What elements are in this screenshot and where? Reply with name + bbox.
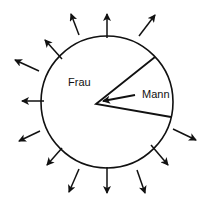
outer-region-label: Frau — [68, 77, 91, 88]
outward-arrow-icon — [69, 169, 79, 192]
pressure-diagram — [0, 0, 210, 205]
outward-arrow-icon — [45, 40, 62, 59]
inner-sector — [96, 57, 171, 117]
outward-arrow-icon — [151, 145, 168, 165]
outward-arrow-icon — [15, 60, 39, 71]
outward-arrow-icon — [173, 129, 196, 140]
inner-arrow-icon — [103, 95, 135, 101]
outward-arrow-icon — [139, 15, 155, 36]
outward-arrow-icon — [19, 131, 40, 141]
outward-arrow-icon — [47, 148, 62, 165]
outward-arrows — [15, 14, 196, 193]
inner-sector-label: Mann — [142, 89, 170, 100]
inner-arrow-icon — [103, 95, 135, 101]
outward-arrow-icon — [137, 170, 145, 193]
outward-arrow-icon — [71, 14, 79, 35]
